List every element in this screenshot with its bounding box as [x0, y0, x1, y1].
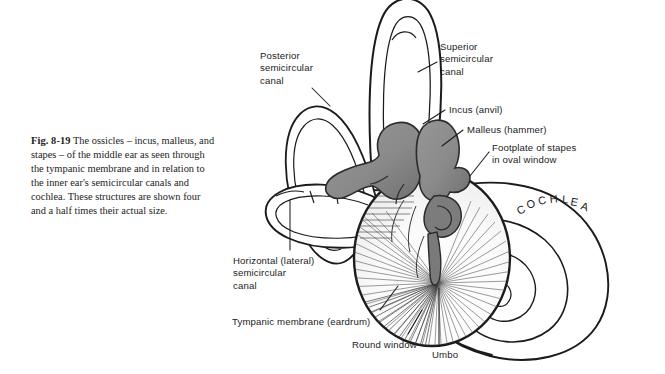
malleus-bone: [416, 120, 470, 201]
leader-posterior-canal: [312, 88, 330, 106]
label-incus: Incus (anvil): [449, 104, 544, 116]
label-horizontal-semicircular-canal: Horizontal (lateral) semicircular canal: [233, 255, 333, 292]
leader-footplate: [470, 152, 489, 176]
label-malleus: Malleus (hammer): [467, 124, 577, 136]
stapes-bone: [424, 196, 461, 238]
label-posterior-semicircular-canal: Posterior semicircular canal: [260, 50, 340, 87]
label-round-window: Round window: [352, 339, 432, 351]
cochlea-letter-l: L: [562, 193, 570, 205]
manubrium-of-malleus: [428, 232, 441, 285]
cochlea-letter-c2: C: [537, 193, 548, 207]
cochlea-letter-a: A: [579, 200, 591, 214]
label-footplate-of-stapes: Footplate of stapes in oval window: [492, 142, 612, 167]
cochlea-letter-e: E: [570, 195, 581, 208]
label-tympanic-membrane: Tympanic membrane (eardrum): [232, 316, 392, 328]
figure-page: Fig. 8-19 The ossicles – incus, malleus,…: [0, 0, 665, 374]
label-superior-semicircular-canal: Superior semicircular canal: [440, 41, 530, 78]
label-umbo: Umbo: [432, 349, 482, 361]
cochlea-letter-o: O: [525, 196, 538, 211]
cochlea-letter-h: H: [549, 192, 559, 205]
cochlea-label: C O C H L E A: [515, 192, 592, 217]
